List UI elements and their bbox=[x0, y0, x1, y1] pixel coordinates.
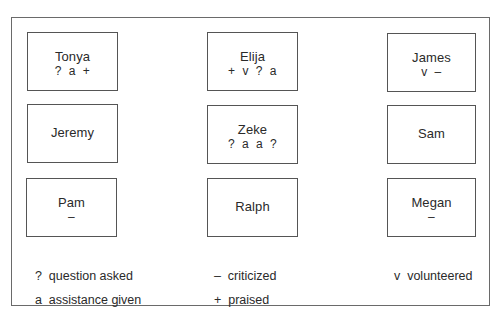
legend-symbol: + bbox=[214, 293, 221, 307]
legend-label: volunteered bbox=[407, 269, 472, 283]
legend-assistance-given: a assistance given bbox=[28, 279, 141, 307]
student-name: Tonya bbox=[28, 49, 117, 64]
student-name: Zeke bbox=[208, 122, 297, 137]
student-name: Jeremy bbox=[28, 125, 117, 140]
seat-tonya: Tonya ? a + bbox=[27, 32, 118, 91]
seat-jeremy: Jeremy bbox=[27, 104, 118, 163]
student-name: James bbox=[388, 50, 475, 65]
student-name: Pam bbox=[27, 195, 116, 210]
seat-sam: Sam bbox=[387, 105, 476, 164]
legend-symbol: v bbox=[394, 269, 400, 283]
interaction-marks: ? a + bbox=[28, 64, 117, 78]
seat-ralph: Ralph bbox=[207, 178, 298, 237]
legend-volunteered: v volunteered bbox=[387, 255, 472, 283]
interaction-marks: v – bbox=[388, 65, 475, 79]
interaction-marks: + v ? a bbox=[208, 64, 297, 78]
legend-label: assistance given bbox=[49, 293, 141, 307]
student-name: Megan bbox=[388, 195, 475, 210]
legend-label: praised bbox=[228, 293, 269, 307]
seat-james: James v – bbox=[387, 33, 476, 92]
student-name: Ralph bbox=[208, 199, 297, 214]
student-name: Elija bbox=[208, 49, 297, 64]
seat-pam: Pam – bbox=[26, 178, 117, 237]
legend-praised: + praised bbox=[207, 279, 269, 307]
seat-megan: Megan – bbox=[387, 178, 476, 237]
legend-symbol: a bbox=[35, 293, 42, 307]
interaction-marks: – bbox=[27, 210, 116, 224]
interaction-marks: ? a a ? bbox=[208, 137, 297, 151]
seat-elija: Elija + v ? a bbox=[207, 32, 298, 91]
interaction-marks: – bbox=[388, 210, 475, 224]
seat-zeke: Zeke ? a a ? bbox=[207, 105, 298, 164]
student-name: Sam bbox=[388, 126, 475, 141]
